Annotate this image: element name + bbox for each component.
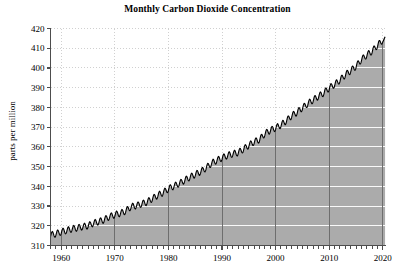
svg-text:2010: 2010 bbox=[320, 253, 339, 263]
svg-text:1960: 1960 bbox=[52, 253, 71, 263]
svg-text:360: 360 bbox=[31, 142, 45, 152]
svg-text:1970: 1970 bbox=[106, 253, 125, 263]
svg-text:400: 400 bbox=[31, 63, 45, 73]
svg-text:310: 310 bbox=[31, 241, 45, 251]
svg-text:390: 390 bbox=[31, 83, 45, 93]
chart-container: Monthly Carbon Dioxide Concentration par… bbox=[0, 0, 415, 277]
svg-text:350: 350 bbox=[31, 162, 45, 172]
svg-text:2000: 2000 bbox=[267, 253, 286, 263]
svg-text:410: 410 bbox=[31, 43, 45, 53]
svg-text:380: 380 bbox=[31, 103, 45, 113]
svg-text:340: 340 bbox=[31, 182, 45, 192]
svg-text:2020: 2020 bbox=[374, 253, 393, 263]
svg-text:370: 370 bbox=[31, 122, 45, 132]
co2-area-series bbox=[51, 37, 386, 246]
svg-text:1980: 1980 bbox=[159, 253, 178, 263]
svg-text:330: 330 bbox=[31, 201, 45, 211]
svg-text:420: 420 bbox=[31, 24, 45, 34]
svg-text:320: 320 bbox=[31, 221, 45, 231]
chart-plot-area: 3103203303403503603703803904004104201960… bbox=[0, 0, 415, 277]
svg-text:1990: 1990 bbox=[213, 253, 232, 263]
